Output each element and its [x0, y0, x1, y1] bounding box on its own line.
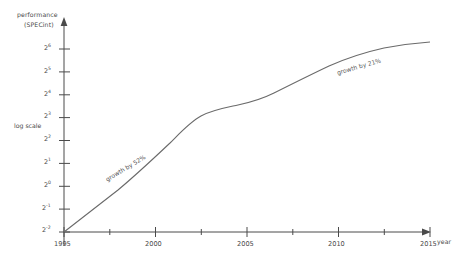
y-tick-label-2e6: 26 [44, 44, 51, 52]
performance-curve [64, 42, 430, 232]
log-scale-note: log scale [14, 122, 41, 129]
y-tick-label-2e0: 20 [44, 181, 51, 189]
chart-canvas [0, 0, 470, 263]
y-tick-label-2e5: 25 [44, 67, 51, 75]
y-tick-label-2e4: 24 [44, 90, 51, 98]
y-tick-label-2e-2: 2-2 [42, 226, 51, 234]
x-tick-label-2015: 2015 [420, 240, 437, 248]
x-tick-label-2005: 2005 [237, 240, 254, 248]
x-tick-label-2010: 2010 [328, 240, 345, 248]
y-tick-label-2e2: 22 [44, 135, 51, 143]
x-tick-label-1995: 1995 [54, 240, 71, 248]
y-axis-arrowhead [61, 17, 68, 26]
x-tick-label-2000: 2000 [145, 240, 162, 248]
y-axis-title-line2: (SPECint) [24, 21, 54, 28]
performance-scaling-chart: performance (SPECint) log scale 26 25 24… [0, 0, 470, 263]
x-axis-title: year [437, 238, 451, 245]
y-tick-label-2e-1: 2-1 [42, 204, 51, 212]
y-axis-title-line1: performance [17, 11, 58, 18]
y-tick-label-2e3: 23 [44, 112, 51, 120]
y-tick-label-2e1: 21 [44, 158, 51, 166]
